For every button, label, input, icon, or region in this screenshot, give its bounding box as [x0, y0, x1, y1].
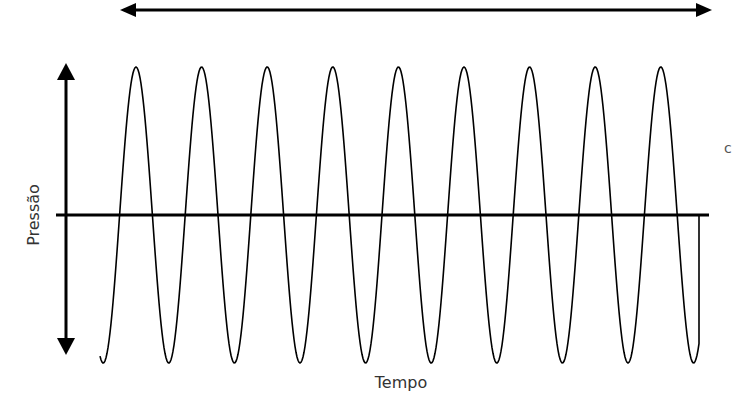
x-axis-label: Tempo: [375, 373, 427, 392]
clipped-edge-text: c: [724, 140, 732, 156]
pressure-double-arrow-icon: [57, 63, 75, 355]
wavelength-double-arrow-icon: [120, 3, 712, 17]
y-axis-label: Pressão: [24, 184, 43, 246]
